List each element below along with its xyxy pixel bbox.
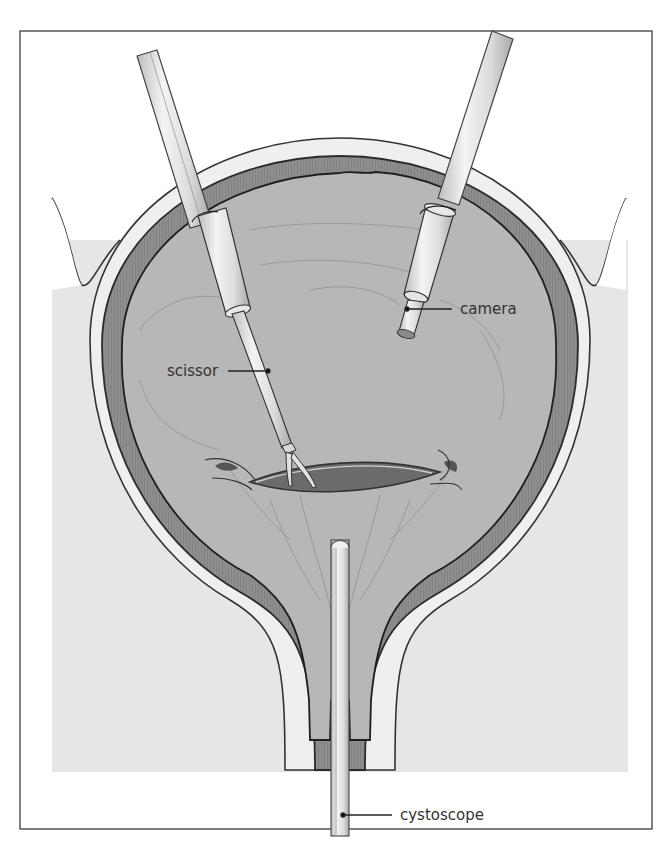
label-scissor: scissor <box>167 362 219 380</box>
bladder-diagram: camera scissor cystoscope <box>0 0 668 858</box>
illustration-frame: camera scissor cystoscope <box>0 0 668 858</box>
cystoscope-instrument <box>331 540 349 836</box>
label-camera: camera <box>460 300 517 318</box>
label-cystoscope: cystoscope <box>400 806 484 824</box>
